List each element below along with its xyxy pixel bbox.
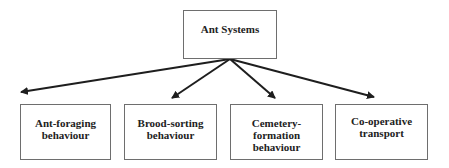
node-label: Cemetery- formation behaviour: [252, 117, 301, 153]
root-node-label: Ant Systems: [201, 23, 259, 35]
node-label: Ant-foraging behaviour: [35, 117, 96, 141]
arrow-to-brood-sorting: [172, 59, 230, 98]
node-label: Co-operative transport: [351, 115, 412, 139]
node-ant-foraging: Ant-foraging behaviour: [20, 104, 111, 160]
root-node-ant-systems: Ant Systems: [183, 10, 277, 59]
arrow-to-ant-foraging: [21, 59, 230, 92]
node-brood-sorting: Brood-sorting behaviour: [124, 104, 217, 160]
node-cooperative-transport: Co-operative transport: [335, 104, 428, 160]
node-cemetery-formation: Cemetery- formation behaviour: [230, 104, 323, 160]
node-label: Brood-sorting behaviour: [138, 117, 204, 141]
